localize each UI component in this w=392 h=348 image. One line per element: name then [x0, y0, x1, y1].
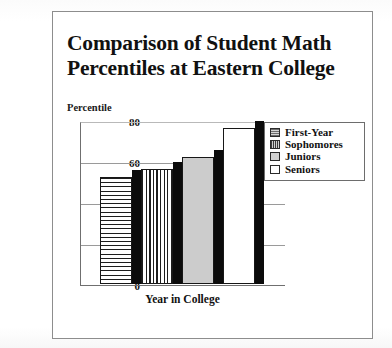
legend-swatch-sophomores-icon [270, 140, 280, 149]
bar-top-first-year [132, 170, 141, 177]
legend-swatch-first-year-icon [270, 128, 280, 137]
bar-sophomores[interactable] [141, 169, 173, 284]
legend-label-sophomores: Sophomores [285, 139, 343, 150]
legend-item-seniors[interactable]: Seniors [270, 163, 360, 175]
chart-legend: First-Year Sophomores Juniors Seniors [264, 122, 365, 181]
bar-side-seniors [255, 128, 264, 284]
chart-frame: Comparison of Student Math Percentiles a… [52, 11, 373, 339]
bar-juniors[interactable] [182, 157, 214, 284]
bar-side-juniors [214, 157, 223, 284]
legend-item-first-year[interactable]: First-Year [270, 126, 360, 138]
bar-top-seniors [255, 121, 264, 128]
bar-top-juniors [214, 150, 223, 157]
legend-label-seniors: Seniors [285, 164, 320, 175]
bar-first-year[interactable] [100, 177, 132, 284]
legend-swatch-seniors-icon [270, 165, 280, 174]
bar-seniors[interactable] [223, 128, 255, 284]
plot-area [80, 122, 285, 286]
legend-item-sophomores[interactable]: Sophomores [270, 138, 360, 150]
legend-label-juniors: Juniors [285, 151, 320, 162]
legend-item-juniors[interactable]: Juniors [270, 151, 360, 163]
x-axis-label: Year in College [80, 293, 285, 305]
bar-side-sophomores [173, 169, 182, 284]
legend-label-first-year: First-Year [285, 127, 333, 138]
legend-swatch-juniors-icon [270, 152, 280, 161]
plot-wrapper: 80 60 40 20 0 [53, 12, 374, 340]
bar-series-container [82, 122, 286, 284]
bar-side-first-year [132, 177, 141, 284]
bar-top-sophomores [173, 162, 182, 169]
